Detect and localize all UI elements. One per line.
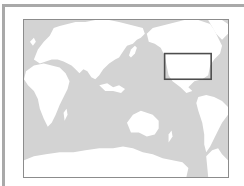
indonesia-landmass (99, 83, 125, 93)
new-zealand-landmass (169, 131, 173, 143)
australia-landmass (127, 111, 159, 137)
world-map-graphic (24, 20, 228, 177)
antarctica-landmass (24, 146, 188, 177)
africa-landmass (24, 63, 70, 126)
japan-landmass (129, 46, 137, 58)
madagascar-landmass (64, 109, 68, 121)
world-map (23, 19, 229, 178)
south-america-landmass (196, 95, 228, 152)
british-isles-landmass (30, 38, 36, 46)
antarctic-peninsula-landmass (206, 148, 228, 177)
